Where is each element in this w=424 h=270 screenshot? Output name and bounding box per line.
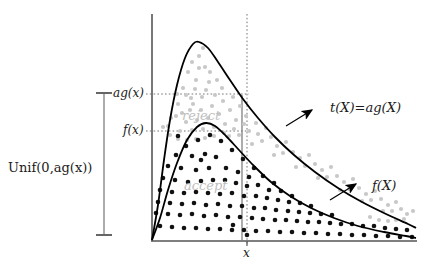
sample-point — [320, 168, 324, 172]
sample-point — [281, 151, 285, 155]
sample-point — [274, 208, 279, 213]
sample-point — [166, 212, 171, 217]
x-axis-tick-label: x — [243, 246, 250, 260]
sample-point — [278, 230, 283, 235]
sample-point — [325, 175, 329, 179]
sample-point — [254, 229, 259, 234]
sample-point — [174, 114, 178, 118]
sample-point — [191, 102, 195, 106]
sample-point — [245, 184, 250, 189]
sample-point — [263, 206, 268, 211]
sample-point — [260, 139, 264, 143]
sample-point — [326, 232, 331, 237]
sample-point — [207, 80, 211, 84]
sample-point — [218, 227, 223, 232]
sample-point — [267, 188, 272, 193]
sample-point — [213, 93, 217, 97]
sample-point — [176, 134, 181, 139]
sample-point — [338, 232, 343, 237]
sample-point — [170, 225, 175, 230]
sample-point — [238, 215, 243, 220]
sample-point — [405, 228, 410, 233]
sample-point — [190, 60, 194, 64]
sample-point — [242, 194, 247, 199]
sample-point — [394, 200, 398, 204]
envelope-curve-t-of-X — [152, 42, 416, 240]
uniform-distribution-label: Unif(0,ag(x)) — [8, 160, 92, 175]
sample-point — [377, 218, 381, 222]
sample-point — [201, 127, 205, 131]
y-tick-label-fx: f(x) — [123, 123, 144, 137]
sample-point — [204, 203, 209, 208]
sample-point — [168, 201, 173, 206]
reject-region-label: reject — [182, 108, 220, 123]
sample-point — [297, 210, 302, 215]
sample-point — [242, 122, 246, 126]
density-curve-label: f(X) — [372, 178, 396, 193]
sample-point — [242, 228, 247, 233]
sample-point — [236, 170, 241, 175]
sample-point — [386, 234, 391, 239]
sample-point — [224, 166, 229, 171]
sample-point — [369, 198, 373, 202]
sample-point — [207, 166, 212, 171]
sample-point — [203, 152, 208, 157]
sample-point — [179, 166, 184, 171]
sample-point — [240, 204, 245, 209]
annotation-arrows — [286, 110, 356, 200]
uniform-bracket — [96, 93, 112, 235]
sample-point — [411, 209, 415, 213]
sample-point — [180, 202, 185, 207]
sample-point — [314, 231, 319, 236]
sample-point — [250, 142, 254, 146]
sample-point — [295, 219, 300, 224]
sample-point — [317, 220, 322, 225]
sample-point — [402, 217, 406, 221]
sample-point — [286, 209, 291, 214]
sample-point — [228, 204, 233, 209]
sample-point — [193, 87, 197, 91]
sample-point — [287, 200, 292, 205]
sample-point — [266, 229, 271, 234]
sample-point — [212, 134, 216, 138]
sample-point — [201, 46, 205, 50]
sample-point — [308, 211, 313, 216]
sample-point — [362, 233, 367, 238]
sample-point — [215, 78, 219, 82]
sample-point — [231, 223, 236, 228]
sample-point — [226, 215, 231, 220]
sample-point — [194, 226, 199, 231]
reject-dots — [161, 46, 415, 223]
sample-point — [194, 78, 198, 82]
sample-point — [231, 95, 235, 99]
sample-point — [307, 153, 311, 157]
sample-point — [214, 155, 219, 160]
sample-point — [290, 230, 295, 235]
sample-point — [216, 202, 221, 207]
sample-point — [178, 129, 182, 133]
sample-point — [230, 191, 235, 196]
sample-point — [256, 183, 261, 188]
sample-point — [197, 66, 201, 70]
sample-point — [350, 233, 355, 238]
sample-point — [197, 54, 201, 58]
sample-point — [186, 70, 190, 74]
sample-point — [342, 180, 346, 184]
sample-point — [206, 227, 211, 232]
sample-point — [250, 216, 255, 221]
sample-point — [394, 227, 399, 232]
sample-point — [284, 218, 289, 223]
sample-point — [399, 207, 403, 211]
sample-point — [275, 144, 279, 148]
sample-point — [237, 133, 241, 137]
sample-point — [182, 226, 187, 231]
sample-point — [192, 201, 197, 206]
sample-point — [374, 234, 379, 239]
sample-point — [247, 175, 252, 180]
sample-point — [203, 136, 207, 140]
sample-point — [386, 203, 390, 207]
sample-point — [254, 194, 259, 199]
sample-point — [173, 178, 178, 183]
sample-point — [238, 104, 242, 108]
sample-point — [379, 197, 383, 201]
